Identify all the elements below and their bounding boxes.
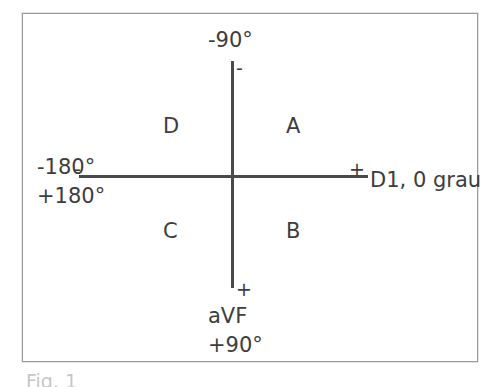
label-lead-d1-zero-grau: D1, 0 grau bbox=[370, 170, 481, 191]
plus-sign-right-icon: + bbox=[349, 160, 365, 179]
label-plus-90-degrees: +90° bbox=[208, 335, 263, 356]
quadrant-label-b: B bbox=[286, 221, 300, 242]
label-plus-180-degrees: +180° bbox=[37, 186, 105, 207]
label-minus-90-degrees: -90° bbox=[208, 30, 253, 51]
label-lead-avf: aVF bbox=[208, 306, 247, 327]
plus-sign-bottom-icon: + bbox=[236, 280, 252, 299]
quadrant-label-c: C bbox=[163, 221, 178, 242]
minus-sign-left-icon: - bbox=[74, 160, 81, 179]
horizontal-axis-line bbox=[79, 175, 368, 178]
quadrant-label-a: A bbox=[286, 116, 300, 137]
figure-frame: -90° -180° +180° D1, 0 grau aVF +90° - +… bbox=[22, 13, 478, 362]
minus-sign-top-icon: - bbox=[236, 59, 243, 78]
figure-caption: Fig. 1 bbox=[26, 372, 466, 387]
label-minus-180-degrees: -180° bbox=[37, 157, 95, 178]
quadrant-label-d: D bbox=[163, 116, 179, 137]
